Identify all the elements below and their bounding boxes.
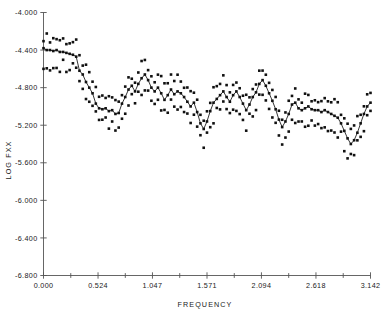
upper-bound-point [49, 41, 52, 44]
lower-bound-point [336, 136, 339, 139]
x-tick-label: 2.094 [252, 281, 272, 290]
data-point [49, 49, 52, 52]
lower-bound-point [78, 80, 81, 83]
x-tick-label: 1.047 [143, 281, 163, 290]
upper-bound-point [343, 117, 346, 120]
upper-bound-point [72, 41, 75, 44]
data-point [163, 99, 166, 102]
data-point [274, 108, 277, 111]
lower-bound-point [238, 113, 241, 116]
data-point [222, 90, 225, 93]
lower-bound-point [251, 115, 254, 118]
upper-bound-point [147, 69, 150, 72]
y-tick-label: -6.400 [15, 234, 37, 243]
lower-bound-point [65, 71, 68, 74]
lower-bound-point [81, 88, 84, 91]
upper-bound-point [294, 87, 297, 90]
upper-confidence-markers [42, 32, 372, 130]
lower-bound-point [137, 90, 140, 93]
upper-bound-point [160, 75, 163, 78]
lower-bound-point [101, 118, 104, 121]
data-point [346, 137, 349, 140]
lower-bound-point [225, 108, 228, 111]
upper-bound-point [330, 101, 333, 104]
lower-bound-point [206, 131, 209, 134]
lower-bound-point [55, 67, 58, 70]
upper-bound-point [42, 40, 45, 43]
upper-bound-point [353, 124, 356, 127]
lower-bound-point [144, 89, 147, 92]
data-point [91, 92, 94, 95]
data-point [268, 92, 271, 95]
upper-bound-point [291, 95, 294, 98]
upper-bound-point [238, 87, 241, 90]
data-point [170, 88, 173, 91]
lower-bound-point [229, 112, 232, 115]
data-point [297, 107, 300, 110]
data-point [114, 113, 117, 116]
data-point [317, 109, 320, 112]
lower-bound-point [150, 99, 153, 102]
data-point [140, 77, 143, 80]
chart-canvas: -4.000-4.400-4.800-5.200-5.600-6.000-6.4… [0, 0, 390, 315]
data-point [124, 96, 127, 99]
lower-bound-point [104, 116, 107, 119]
upper-bound-point [366, 93, 369, 96]
lower-bound-point [235, 110, 238, 113]
data-point [117, 112, 120, 115]
lower-bound-point [245, 129, 248, 132]
upper-bound-point [369, 92, 372, 95]
upper-bound-point [232, 84, 235, 87]
x-tick-label: 1.571 [197, 281, 217, 290]
lower-bound-point [68, 69, 71, 72]
lower-bound-point [170, 98, 173, 101]
lower-bound-point [45, 67, 48, 70]
lower-bound-point [359, 136, 362, 139]
data-point [137, 83, 140, 86]
upper-bound-point [140, 60, 143, 63]
data-point [314, 109, 317, 112]
lower-bound-point [114, 129, 117, 132]
upper-bound-point [189, 90, 192, 93]
upper-bound-point [242, 94, 245, 97]
upper-bound-point [356, 115, 359, 118]
data-point [127, 88, 130, 91]
lower-bound-point [353, 154, 356, 157]
lower-bound-point [323, 126, 326, 129]
upper-bound-point [183, 86, 186, 89]
data-point [95, 102, 98, 105]
x-tick-label: 2.618 [306, 281, 326, 290]
lower-bound-point [356, 139, 359, 142]
data-point [75, 55, 78, 58]
upper-bound-point [157, 73, 160, 76]
upper-bound-point [271, 89, 274, 92]
data-point [336, 116, 339, 119]
upper-bound-point [202, 119, 205, 122]
lower-bound-point [310, 119, 313, 122]
lower-bound-point [134, 102, 137, 105]
data-point [121, 102, 124, 105]
lower-bound-point [248, 112, 251, 115]
upper-bound-point [278, 109, 281, 112]
upper-bound-point [75, 38, 78, 41]
data-point [160, 92, 163, 95]
upper-bound-point [52, 37, 55, 40]
lower-bound-point [327, 130, 330, 133]
data-point [340, 122, 343, 125]
upper-bound-point [196, 98, 199, 101]
upper-bound-point [85, 63, 88, 66]
lower-bound-point [209, 126, 212, 129]
y-axis-tick-labels: -4.000-4.400-4.800-5.200-5.600-6.000-6.4… [15, 8, 37, 280]
upper-bound-point [222, 74, 225, 77]
upper-bound-point [130, 77, 133, 80]
data-point [359, 122, 362, 125]
upper-bound-point [180, 80, 183, 83]
y-tick-label: -4.000 [15, 8, 37, 17]
lower-bound-point [124, 112, 127, 115]
data-point [366, 105, 369, 108]
data-point [287, 113, 290, 116]
spectral-estimate-markers [42, 47, 372, 145]
data-point [301, 109, 304, 112]
data-point [108, 110, 111, 113]
upper-bound-point [323, 97, 326, 100]
